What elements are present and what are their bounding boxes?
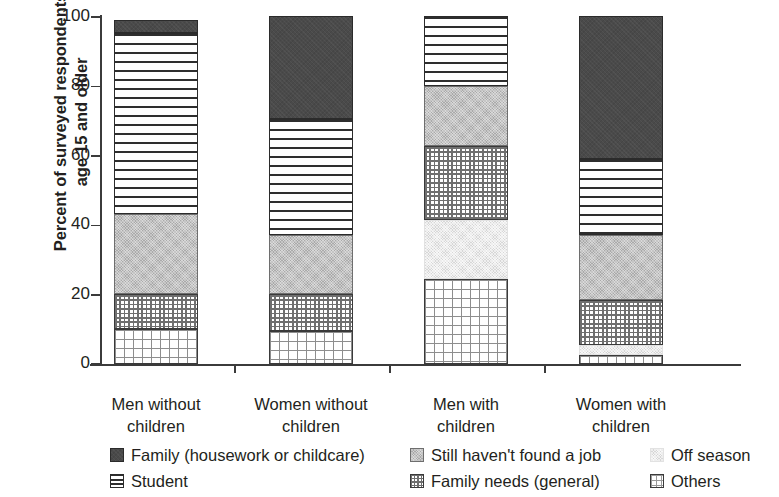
dark-solid-square-icon [110,448,124,462]
y-tick-label-100: 100 [44,6,90,26]
very-light-square-icon [650,448,664,462]
y-tick-label-0: 0 [44,353,90,373]
y-tick-label-40: 40 [44,214,90,234]
segment-others[interactable] [424,279,508,364]
legend-label: Family needs (general) [431,472,600,490]
x-axis-line [90,364,741,366]
segment-off-season[interactable] [424,220,508,279]
segment-off-season[interactable] [579,345,663,356]
segment-student[interactable] [114,33,198,214]
segment-others[interactable] [269,331,353,364]
segment-family-needs[interactable] [579,300,663,345]
y-axis-line [100,15,102,365]
y-tick-label-80: 80 [44,75,90,95]
legend-item-others[interactable]: Others [650,472,721,490]
legend: Family (housework or childcare) Still ha… [110,446,779,497]
legend-item-student[interactable]: Student [110,472,188,490]
x-category-label-women-with-children: Women with children [536,394,706,438]
x-axis-tick-1 [234,364,236,373]
x-category-label-men-with-children: Men with children [381,394,551,438]
segment-still-havent-found-a-job[interactable] [424,86,508,147]
legend-item-still-havent-found-a-job[interactable]: Still haven't found a job [410,446,601,464]
segment-family-housework-childcare[interactable] [579,16,663,159]
segment-family-needs[interactable] [114,294,198,329]
legend-label: Family (housework or childcare) [131,446,365,464]
legend-item-off-season[interactable]: Off season [650,446,751,464]
horizontal-lines-square-icon [110,474,124,488]
segment-still-havent-found-a-job[interactable] [269,235,353,294]
segment-still-havent-found-a-job[interactable] [579,235,663,299]
y-axis-tick-80 [91,86,100,88]
x-category-label-women-without-children: Women without children [226,394,396,438]
y-axis-tick-40 [91,225,100,227]
legend-label: Student [131,472,188,490]
cross-hatch-square-icon [410,474,424,488]
segment-others[interactable] [579,355,663,364]
x-axis-tick-2 [389,364,391,373]
legend-item-family-needs-general[interactable]: Family needs (general) [410,472,600,490]
legend-item-family-housework-childcare[interactable]: Family (housework or childcare) [110,446,365,464]
segment-family-housework-childcare[interactable] [114,20,198,34]
y-axis-tick-20 [91,294,100,296]
segment-family-housework-childcare[interactable] [269,16,353,119]
plot-area: Men without children Women without child… [100,16,740,364]
segment-others[interactable] [114,329,198,364]
y-tick-label-60: 60 [44,145,90,165]
segment-student[interactable] [424,16,508,86]
x-category-label-men-without-children: Men without children [71,394,241,438]
y-tick-label-20: 20 [44,284,90,304]
legend-label: Off season [671,446,751,464]
segment-student[interactable] [579,159,663,236]
segment-family-needs[interactable] [424,146,508,219]
y-axis-tick-100 [91,16,100,18]
segment-student[interactable] [269,119,353,236]
stacked-bar-chart: Percent of surveyed respondents age 15 a… [0,0,779,497]
y-axis-tick-0 [91,363,100,365]
x-axis-tick-3 [544,364,546,373]
legend-label: Others [671,472,721,490]
segment-still-havent-found-a-job[interactable] [114,214,198,294]
light-gray-stipple-square-icon [410,448,424,462]
segment-family-needs[interactable] [269,294,353,331]
y-axis-tick-60 [91,155,100,157]
legend-label: Still haven't found a job [431,446,601,464]
grid-square-icon [650,474,664,488]
